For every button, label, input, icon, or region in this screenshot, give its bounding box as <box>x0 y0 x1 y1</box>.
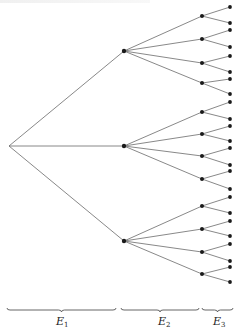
label-e1: E1 <box>55 315 69 329</box>
edge-e1-to-e2 <box>124 229 202 241</box>
edge-e1-to-e2 <box>124 51 202 83</box>
edge-e1-to-e2 <box>124 134 202 146</box>
e3-leaf-node <box>228 21 232 25</box>
brace-e3 <box>202 308 233 312</box>
edge-e2-to-e3 <box>202 7 230 16</box>
edge-e2-to-e3 <box>202 112 230 119</box>
edge-e1-to-e2 <box>124 51 202 63</box>
brace-e1 <box>7 308 116 312</box>
edge-e2-to-e3 <box>202 197 230 206</box>
e2-node <box>200 177 204 181</box>
edge-e1-to-e2 <box>124 39 202 51</box>
e3-leaf-node <box>228 5 232 9</box>
e2-node <box>200 250 204 254</box>
e3-leaf-node <box>228 117 232 121</box>
tree-diagram: E1 E2 E3 <box>0 0 239 330</box>
e3-leaf-node <box>228 77 232 81</box>
edge-e2-to-e3 <box>202 56 230 63</box>
e3-leaf-node <box>228 265 232 269</box>
e3-leaf-node <box>228 163 232 167</box>
e3-leaf-node <box>228 139 232 143</box>
e3-leaf-node <box>228 45 232 49</box>
e1-node <box>122 239 126 243</box>
edge-e2-to-e3 <box>202 148 230 156</box>
edge-e2-to-e3 <box>202 244 230 252</box>
e3-leaf-node <box>228 92 232 96</box>
e3-leaf-node <box>228 280 232 284</box>
e3-leaf-node <box>228 146 232 150</box>
e1-node <box>122 49 126 53</box>
edge-e2-to-e3 <box>202 179 230 189</box>
edge-e2-to-e3 <box>202 274 230 282</box>
edge-e2-to-e3 <box>202 134 230 141</box>
edge-e2-to-e3 <box>202 63 230 72</box>
edge-e2-to-e3 <box>202 83 230 94</box>
e3-leaf-node <box>228 187 232 191</box>
e2-node <box>200 14 204 18</box>
e3-leaf-node <box>228 195 232 199</box>
brace-e2 <box>121 308 199 312</box>
tree-edges <box>9 7 230 282</box>
e2-node <box>200 227 204 231</box>
e3-leaf-node <box>228 28 232 32</box>
edge-e1-to-e2 <box>124 16 202 51</box>
e3-leaf-node <box>228 259 232 263</box>
e2-node <box>200 132 204 136</box>
edge-e2-to-e3 <box>202 30 230 39</box>
e2-node <box>200 272 204 276</box>
edge-e1-to-e2 <box>124 241 202 274</box>
edge-e2-to-e3 <box>202 267 230 274</box>
edge-e1-to-e2 <box>124 241 202 252</box>
edge-e2-to-e3 <box>202 39 230 47</box>
e2-node <box>200 37 204 41</box>
e2-node <box>200 204 204 208</box>
edge-e2-to-e3 <box>202 229 230 236</box>
edge-e1-to-e2 <box>124 206 202 241</box>
e3-leaf-node <box>228 169 232 173</box>
edge-root-to-e1 <box>9 51 124 146</box>
e2-node <box>200 154 204 158</box>
e3-leaf-node <box>228 219 232 223</box>
e3-leaf-node <box>228 70 232 74</box>
e2-node <box>200 81 204 85</box>
edge-e2-to-e3 <box>202 102 230 112</box>
tree-nodes <box>122 5 232 284</box>
edge-e2-to-e3 <box>202 252 230 261</box>
edge-root-to-e1 <box>9 146 124 241</box>
label-e2: E2 <box>157 315 171 329</box>
edge-e2-to-e3 <box>202 156 230 165</box>
edge-e2-to-e3 <box>202 79 230 83</box>
e2-node <box>200 61 204 65</box>
e2-node <box>200 110 204 114</box>
edge-e1-to-e2 <box>124 112 202 146</box>
edge-e2-to-e3 <box>202 16 230 23</box>
stage-labels: E1 E2 E3 <box>55 315 226 329</box>
edge-e2-to-e3 <box>202 171 230 179</box>
stage-braces <box>7 308 233 312</box>
edge-e2-to-e3 <box>202 221 230 229</box>
edge-e2-to-e3 <box>202 206 230 213</box>
edge-e2-to-e3 <box>202 126 230 134</box>
label-e3: E3 <box>212 315 226 329</box>
e3-leaf-node <box>228 124 232 128</box>
e3-leaf-node <box>228 54 232 58</box>
e3-leaf-node <box>228 211 232 215</box>
e3-leaf-node <box>228 242 232 246</box>
e1-node <box>122 144 126 148</box>
e3-leaf-node <box>228 234 232 238</box>
e3-leaf-node <box>228 100 232 104</box>
